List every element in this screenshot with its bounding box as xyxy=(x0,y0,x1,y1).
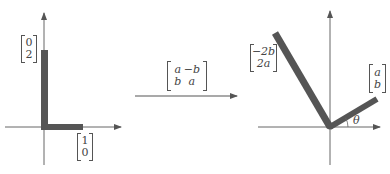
left-l-shape xyxy=(41,50,83,130)
vector-entry: 2a xyxy=(257,58,271,70)
matrix-entry-r2c1: b xyxy=(174,76,182,88)
right-image-e2-bar xyxy=(275,33,330,127)
left-vertical-bar xyxy=(41,50,48,130)
rotation-scaling-matrix: a −b b a xyxy=(167,61,207,91)
vector-entry: a xyxy=(374,67,381,79)
linear-transformation-diagram: 0 2 1 0 a −b b a −2b 2a a b θ xyxy=(0,0,390,174)
vector-label-a-b: a b xyxy=(369,64,386,93)
vector-label-0-2: 0 2 xyxy=(21,35,37,63)
left-horizontal-bar xyxy=(41,124,83,130)
vector-entry: 0 xyxy=(82,147,89,159)
matrix-entry-r2c2: a xyxy=(184,76,200,88)
vector-label-neg2b-2a: −2b 2a xyxy=(250,44,277,72)
matrix-entries: a −b b a xyxy=(170,62,204,90)
vector-entry: 2 xyxy=(26,49,33,61)
right-transformed-l xyxy=(275,33,377,130)
vector-label-1-0: 1 0 xyxy=(77,133,93,161)
theta-label: θ xyxy=(353,114,360,127)
vector-entry: b xyxy=(374,79,381,91)
right-origin-joint xyxy=(327,123,334,130)
